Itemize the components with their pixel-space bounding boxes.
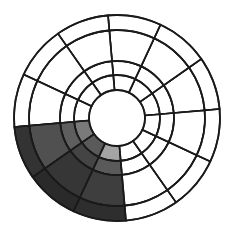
center-hole-ring [89,90,145,146]
segment-cells [14,15,220,221]
polar-segment-diagram [0,0,228,234]
